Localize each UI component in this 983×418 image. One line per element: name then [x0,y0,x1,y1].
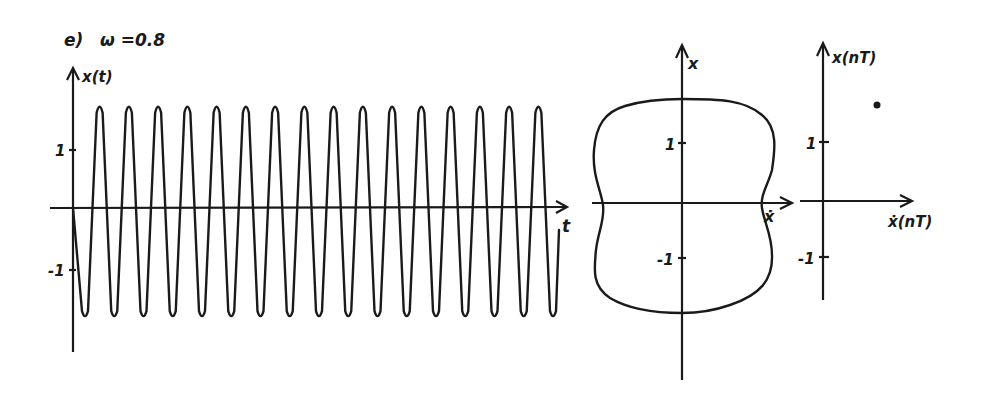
panel-label: e) [64,30,83,50]
ts-tick-label-neg1: -1 [48,262,65,280]
pm-fixed-point [874,102,881,109]
omega-label: ω =0.8 [100,30,165,50]
pm-tick-label-neg1: -1 [798,250,815,268]
ts-y-label: x(t) [81,68,113,86]
pm-x-label: ẋ(nT) [887,213,932,231]
pp-y-label: x [687,54,699,73]
pm-y-label: x(nT) [831,49,876,67]
ts-x-label: t [562,216,571,236]
ts-tick-label-1: 1 [55,142,65,160]
pp-tick-label-neg1: -1 [657,251,674,269]
pm-tick-label-1: 1 [806,135,816,153]
figure-canvas: e) ω =0.8 1 -1 x(t) t 1 -1 x ẋ [0,0,983,418]
pp-tick-label-1: 1 [665,136,675,154]
